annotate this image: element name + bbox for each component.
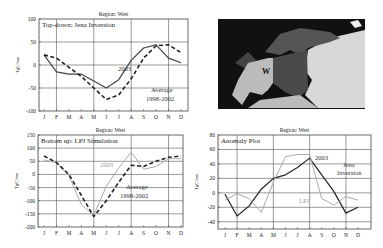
y-tick-label: 0: [212, 190, 215, 196]
x-tick-label: N: [167, 114, 171, 120]
x-tick-label: J: [118, 114, 121, 120]
x-tick-label: M: [66, 230, 71, 236]
annotation: 2003: [100, 161, 113, 168]
annotation: 1998-2002: [120, 192, 148, 199]
x-tick-label: J: [296, 232, 299, 238]
chart-title: Region: West: [280, 127, 310, 133]
x-tick-label: D: [356, 232, 360, 238]
x-tick-label: A: [129, 230, 133, 236]
x-tick-label: A: [79, 114, 83, 120]
series-line: [44, 45, 181, 88]
x-tick-label: J: [105, 114, 108, 120]
x-tick-label: A: [259, 232, 263, 238]
y-tick-label: 0: [32, 171, 35, 177]
x-tick-label: M: [247, 232, 252, 238]
x-tick-label: J: [118, 230, 121, 236]
annotation: Average: [151, 86, 173, 93]
y-tick-label: -100: [25, 198, 35, 204]
figure-canvas: Region: West-100-50050100JFMAMJJASONDTgC…: [0, 0, 383, 248]
x-tick-label: M: [91, 114, 96, 120]
y-tick-label: -20: [208, 204, 216, 210]
x-tick-label: D: [179, 114, 183, 120]
chart-title: Region: West: [99, 11, 129, 17]
annotation: LPJ: [299, 197, 310, 204]
y-tick-label: 50: [30, 158, 36, 164]
x-tick-label: N: [167, 230, 171, 236]
y-tick-label: -200: [25, 224, 35, 230]
y-tick-label: 80: [210, 132, 216, 138]
plot-frame: [38, 135, 183, 227]
x-tick-label: A: [129, 114, 133, 120]
map-label-w: W: [262, 67, 270, 76]
plot-frame: [218, 135, 371, 229]
y-tick-label: 100: [28, 16, 37, 22]
annotation: Average: [126, 183, 148, 190]
series-line: [225, 155, 358, 213]
y-tick-label: 150: [27, 132, 36, 138]
x-tick-label: F: [55, 230, 58, 236]
x-tick-label: D: [179, 230, 183, 236]
y-tick-label: -100: [26, 108, 36, 114]
x-tick-label: S: [142, 114, 145, 120]
x-tick-label: A: [79, 230, 83, 236]
x-tick-label: N: [344, 232, 348, 238]
x-tick-label: J: [43, 230, 46, 236]
y-tick-label: -50: [29, 85, 37, 91]
y-tick-label: -50: [28, 185, 36, 191]
y-tick-label: 40: [210, 161, 216, 167]
x-tick-label: M: [271, 232, 276, 238]
top-left-chart: Region: West-100-50050100JFMAMJJASONDTgC…: [15, 11, 188, 120]
x-tick-label: S: [320, 232, 323, 238]
annotation: Inversion: [337, 169, 362, 176]
y-axis-label: TgC/mo: [15, 56, 20, 73]
region-map: W: [218, 19, 365, 109]
bottom-left-chart: Region: West-200-150-100-50050100150JFMA…: [14, 127, 183, 236]
plot-subtitle: Top-down: Jena Inversion: [42, 21, 115, 29]
x-tick-label: M: [91, 230, 96, 236]
y-axis-label: TgC/mo: [14, 172, 19, 189]
x-tick-label: M: [66, 114, 71, 120]
annotation: 1998-2002: [146, 95, 174, 102]
x-tick-label: J: [43, 114, 46, 120]
x-tick-label: A: [308, 232, 312, 238]
annotation: Jena: [343, 161, 355, 168]
x-tick-label: O: [332, 232, 336, 238]
x-tick-label: S: [142, 230, 145, 236]
x-tick-label: J: [284, 232, 287, 238]
annotation: 2003: [315, 154, 328, 161]
y-tick-label: -150: [25, 211, 35, 217]
y-tick-label: 100: [27, 145, 36, 151]
x-tick-label: F: [55, 114, 58, 120]
y-tick-label: 20: [210, 175, 216, 181]
plot-subtitle: Anomaly Plot: [221, 137, 260, 145]
y-tick-label: 50: [31, 39, 37, 45]
x-tick-label: J: [224, 232, 227, 238]
y-tick-label: 60: [210, 146, 216, 152]
chart-title: Region: West: [96, 127, 126, 133]
plot-subtitle: Bottom up: LPJ Simulation: [41, 137, 118, 145]
x-tick-label: O: [154, 230, 158, 236]
y-tick-label: 0: [33, 62, 36, 68]
x-tick-label: O: [154, 114, 158, 120]
x-tick-label: J: [105, 230, 108, 236]
annotation: 2003: [118, 65, 131, 72]
bottom-right-chart: Region: West-40-20020406080JFMAMJJASONDT…: [194, 127, 371, 238]
x-tick-label: F: [236, 232, 239, 238]
y-tick-label: -40: [208, 219, 216, 225]
y-axis-label: TgC/mo: [194, 173, 199, 190]
